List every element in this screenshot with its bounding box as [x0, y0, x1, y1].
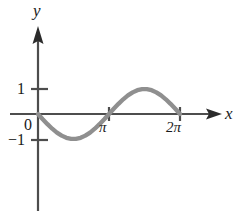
plot-canvas — [0, 0, 241, 215]
origin-label: 0 — [24, 117, 32, 133]
x-axis-label: x — [225, 105, 233, 122]
sine-wave-figure: y x 1 0 −1 π 2π — [0, 0, 241, 215]
y-axis-label: y — [33, 2, 41, 19]
y-tick-label-one: 1 — [17, 81, 25, 97]
x-tick-label-two-pi: 2π — [166, 120, 181, 135]
y-tick-label-negative-one: −1 — [8, 132, 25, 148]
x-tick-label-pi: π — [99, 120, 107, 135]
